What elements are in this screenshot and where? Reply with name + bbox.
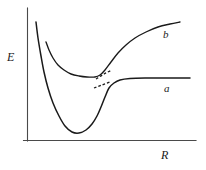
curve-b-label: b <box>163 29 169 40</box>
curve-a-label: a <box>164 83 170 94</box>
potential-energy-figure: E R b a <box>0 0 206 170</box>
x-axis-label: R <box>161 149 168 161</box>
dashed-lower-continuation <box>94 82 110 88</box>
figure-canvas <box>0 0 206 170</box>
y-axis-label: E <box>7 51 14 63</box>
curve-b-path <box>46 22 180 77</box>
